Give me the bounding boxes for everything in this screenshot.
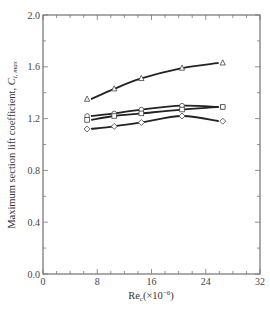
x-axis-label: Rec(×10−6) [128, 289, 174, 303]
y-tick-label: 1.2 [28, 113, 41, 124]
y-tick-label: 0.8 [28, 165, 41, 176]
square-marker [220, 105, 225, 110]
series-triangle [84, 60, 225, 101]
series-group [84, 60, 226, 132]
y-axis-label: Maximum section lift coefficient, Cl, ma… [6, 60, 19, 229]
diamond-marker [111, 123, 117, 129]
y-tick-label: 0.4 [28, 217, 41, 228]
diamond-marker [179, 113, 185, 119]
x-tick-label: 24 [201, 276, 211, 287]
ticks [43, 15, 260, 274]
triangle-marker [220, 60, 225, 65]
chart: 081624320.00.40.81.21.62.0 Rec(×10−6) Ma… [0, 0, 270, 313]
y-tick-label: 0.0 [28, 269, 41, 280]
square-marker [112, 114, 117, 119]
series-diamond [84, 113, 226, 132]
series-line-triangle [91, 63, 219, 99]
y-tick-label: 2.0 [28, 10, 41, 21]
series-circle [85, 103, 225, 118]
x-tick-label: 0 [41, 276, 46, 287]
diamond-marker [138, 119, 144, 125]
series-line-circle [91, 106, 219, 116]
x-tick-label: 8 [95, 276, 100, 287]
square-marker [139, 111, 144, 116]
y-tick-label: 1.6 [28, 61, 41, 72]
square-marker [180, 107, 185, 112]
x-tick-label: 32 [255, 276, 265, 287]
axes [43, 15, 260, 274]
square-marker [85, 118, 90, 123]
tick-labels: 081624320.00.40.81.21.62.0 [28, 10, 266, 288]
diamond-marker [220, 118, 226, 124]
diamond-marker [84, 126, 90, 132]
plot-frame [43, 15, 260, 274]
series-line-diamond [91, 116, 219, 129]
triangle-marker [84, 96, 89, 101]
x-tick-label: 16 [147, 276, 157, 287]
